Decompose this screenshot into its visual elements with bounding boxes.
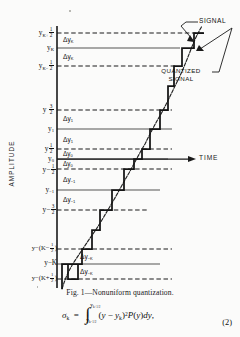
step-label: Δy−K [80, 253, 93, 261]
quantized-signal-line2: SIGNAL [150, 75, 212, 83]
step-label: ΔyK [63, 53, 73, 61]
step-label: Δy−1 [63, 176, 75, 184]
step-label: Δy1 [63, 136, 73, 144]
y-tick-label: yK+12 [39, 27, 54, 39]
y-tick-label: y−K [44, 259, 57, 267]
time-axis-label: TIME [199, 154, 218, 161]
time-axis [57, 156, 196, 162]
step-label: Δy0 [63, 160, 73, 168]
y-tick-label: y 32 [43, 104, 54, 116]
equation-block: σk = ∫yk+1/2yk−1/2 (y − yk)2P(y)dy, (2) [0, 306, 240, 334]
step-label: ΔyK [63, 36, 73, 44]
step-label: Δy0 [63, 150, 73, 158]
amplitude-axis-label: AMPLITUDE [8, 134, 15, 194]
y-tick-label: y−1 [45, 185, 54, 194]
y-tick-label: y0 [48, 154, 54, 163]
y-tick-label: y−12 [42, 164, 56, 176]
quantized-signal-leader [196, 28, 232, 72]
quantized-signal-line1: QUANTIZED [150, 67, 212, 75]
y-tick-label: yK [47, 43, 54, 52]
step-label: Δy−K [80, 268, 93, 276]
quantized-signal-annotation: QUANTIZED SIGNAL [150, 67, 212, 82]
y-tick-label: yK−12 [39, 60, 54, 72]
signal-annotation: SIGNAL [199, 17, 226, 24]
y-tick-label: y−32 [42, 204, 56, 216]
y-tick-label: y12 [45, 143, 54, 155]
figure-caption: Fig. 1—Nonuniform quantization. [0, 288, 240, 297]
equation-number: (2) [222, 318, 232, 327]
step-label: Δy−1 [63, 196, 75, 204]
y-tick-label: y1 [48, 124, 54, 133]
y-tick-label: y−(K+12) [32, 273, 57, 284]
equation-expression: σk = ∫yk+1/2yk−1/2 (y − yk)2P(y)dy, [62, 310, 154, 321]
figure-nonuniform-quantization: AMPLITUDE TIME SIGNAL QUANTIZED SIGNAL y… [0, 0, 240, 337]
y-tick-label: y−(K−12) [32, 243, 57, 254]
step-label: Δy1 [63, 115, 73, 123]
